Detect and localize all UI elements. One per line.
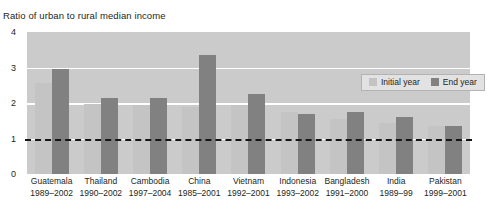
bar-guatemala-end-year [52, 69, 69, 174]
bar-group-thailand [76, 32, 125, 174]
bar-group-pakistan [421, 32, 470, 174]
x-tick-label-bangladesh: Bangladesh1991–2000 [322, 176, 371, 199]
y-tick-0: 0 [0, 169, 16, 179]
x-tick-years: 1999–2001 [421, 188, 470, 200]
x-tick-label-vietnam: Vietnam1992–2001 [224, 176, 273, 199]
x-tick-years: 1985–2001 [175, 188, 224, 200]
chart-figure: Ratio of urban to rural median income In… [0, 0, 490, 213]
bar-bangladesh-end-year [347, 112, 364, 174]
x-tick-country: Thailand [76, 176, 125, 188]
legend-label-initial-year: Initial year [381, 77, 420, 87]
bar-bangladesh-initial-year [330, 119, 347, 174]
x-tick-country: Guatemala [27, 176, 76, 188]
y-tick-4: 4 [0, 27, 16, 37]
x-tick-country: Bangladesh [322, 176, 371, 188]
x-tick-label-china: China1985–2001 [175, 176, 224, 199]
bar-pakistan-end-year [445, 126, 462, 174]
x-tick-country: India [372, 176, 421, 188]
x-tick-label-cambodia: Cambodia1997–2004 [125, 176, 174, 199]
bar-india-initial-year [379, 123, 396, 174]
x-tick-label-thailand: Thailand1990–2002 [76, 176, 125, 199]
bar-cambodia-end-year [150, 98, 167, 174]
x-tick-label-guatemala: Guatemala1989–2002 [27, 176, 76, 199]
plot-area: Initial year End year [27, 32, 470, 174]
x-tick-country: Indonesia [273, 176, 322, 188]
bar-china-end-year [199, 55, 216, 174]
bar-group-vietnam [224, 32, 273, 174]
x-tick-label-india: India1989–99 [372, 176, 421, 199]
bar-group-cambodia [125, 32, 174, 174]
bar-group-indonesia [273, 32, 322, 174]
x-tick-years: 1997–2004 [125, 188, 174, 200]
y-tick-3: 3 [0, 63, 16, 73]
legend-swatch-end-year [431, 78, 439, 86]
reference-line [25, 139, 472, 141]
bar-group-bangladesh [322, 32, 371, 174]
chart-legend: Initial year End year [361, 74, 485, 91]
x-tick-years: 1991–2000 [322, 188, 371, 200]
x-tick-years: 1990–2002 [76, 188, 125, 200]
bar-india-end-year [396, 117, 413, 175]
bar-indonesia-initial-year [281, 112, 298, 174]
x-tick-country: China [175, 176, 224, 188]
x-tick-years: 1993–2002 [273, 188, 322, 200]
bar-vietnam-end-year [248, 94, 265, 174]
x-axis-labels: Guatemala1989–2002Thailand1990–2002Cambo… [27, 176, 470, 199]
bar-guatemala-initial-year [35, 83, 52, 174]
bar-indonesia-end-year [298, 114, 315, 174]
x-tick-years: 1989–2002 [27, 188, 76, 200]
x-tick-label-indonesia: Indonesia1993–2002 [273, 176, 322, 199]
x-tick-country: Pakistan [421, 176, 470, 188]
y-tick-1: 1 [0, 134, 16, 144]
chart-title: Ratio of urban to rural median income [3, 10, 166, 21]
legend-item-end-year: End year [431, 77, 477, 87]
x-tick-country: Vietnam [224, 176, 273, 188]
bar-thailand-end-year [101, 98, 118, 174]
bar-group-india [372, 32, 421, 174]
legend-swatch-initial-year [369, 78, 377, 86]
x-tick-country: Cambodia [125, 176, 174, 188]
x-tick-label-pakistan: Pakistan1999–2001 [421, 176, 470, 199]
legend-label-end-year: End year [443, 77, 477, 87]
bar-group-guatemala [27, 32, 76, 174]
x-tick-years: 1992–2001 [224, 188, 273, 200]
bar-groups [27, 32, 470, 174]
x-tick-years: 1989–99 [372, 188, 421, 200]
bar-group-china [175, 32, 224, 174]
legend-item-initial-year: Initial year [369, 77, 420, 87]
y-tick-2: 2 [0, 98, 16, 108]
bar-pakistan-initial-year [428, 126, 445, 174]
